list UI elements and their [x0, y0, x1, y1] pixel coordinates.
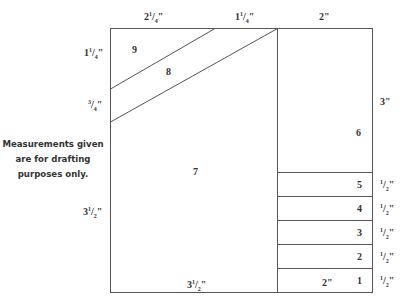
measure-right-2: 1/2" — [380, 252, 394, 262]
piece-9: 9 — [132, 45, 137, 55]
piece-2: 2 — [357, 252, 362, 262]
measure-bottom-right: 2" — [322, 278, 333, 288]
measure-left-middle: 3/4" — [88, 100, 102, 110]
measure-right-6: 3" — [380, 97, 391, 107]
measure-right-4: 1/2" — [380, 204, 394, 214]
drafting-note: Measurements given are for drafting purp… — [2, 137, 104, 182]
measure-top-left: 21/4" — [144, 12, 163, 22]
piece-3: 3 — [357, 228, 362, 238]
diagonal-8-7 — [111, 29, 278, 123]
measure-right-3: 1/2" — [380, 228, 394, 238]
diagonal-9-8 — [111, 29, 216, 90]
block-border — [111, 29, 373, 293]
measure-right-5: 1/2" — [380, 180, 394, 190]
piece-7: 7 — [193, 167, 198, 177]
piece-6: 6 — [356, 128, 361, 138]
measure-right-1: 1/2" — [380, 276, 394, 286]
measure-top-right: 2" — [319, 12, 330, 22]
measure-bottom-left: 31/2" — [187, 280, 206, 290]
measure-top-middle: 11/4" — [235, 12, 254, 22]
measure-left-bottom: 31/2" — [83, 207, 102, 217]
piece-4: 4 — [357, 204, 362, 214]
piece-8: 8 — [166, 67, 171, 77]
piece-5: 5 — [357, 180, 362, 190]
measure-left-top: 11/4" — [84, 48, 103, 58]
piece-1: 1 — [357, 276, 362, 286]
